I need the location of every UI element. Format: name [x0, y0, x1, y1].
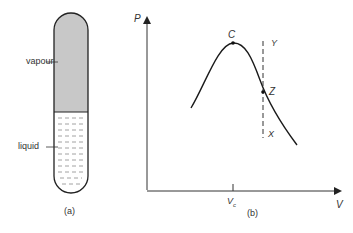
- vc-tick-label: Vc: [227, 196, 236, 208]
- caption-b: (b): [247, 208, 258, 218]
- coexistence-curve: [191, 43, 297, 145]
- liquid-dashes: [58, 118, 84, 184]
- liquid-label: liquid: [18, 141, 39, 151]
- vapour-label: vapour: [26, 56, 54, 66]
- x-axis-arrow-icon: [334, 187, 342, 195]
- point-y-label: Y: [271, 38, 277, 48]
- point-x-label: X: [268, 129, 274, 139]
- z-point-dot: [261, 90, 265, 94]
- test-tube: [46, 13, 88, 193]
- y-axis-arrow-icon: [143, 16, 151, 24]
- point-c-label: C: [228, 29, 235, 40]
- x-axis-label: V: [336, 199, 343, 210]
- y-axis-label: P: [134, 13, 141, 24]
- pv-graph: [143, 16, 342, 195]
- critical-point-dot: [231, 41, 235, 45]
- point-z-label: Z: [269, 86, 275, 97]
- caption-a: (a): [64, 206, 75, 216]
- diagram-canvas: [0, 0, 353, 233]
- vapour-region: [54, 13, 88, 112]
